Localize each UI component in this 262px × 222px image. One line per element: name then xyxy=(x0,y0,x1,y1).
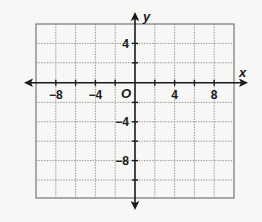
origin-label: O xyxy=(121,86,131,101)
y-tick-label: −8 xyxy=(115,154,129,168)
x-axis-label: x xyxy=(238,65,247,80)
x-tick-label: −4 xyxy=(89,88,103,102)
coordinate-plane: x y O −8 −4 4 8 4 −4 −8 xyxy=(0,0,262,222)
x-tick-label: −8 xyxy=(49,88,63,102)
x-tick-label: 4 xyxy=(171,88,178,102)
x-axis xyxy=(24,79,248,88)
y-tick-label: 4 xyxy=(122,37,129,51)
x-tick-label: 8 xyxy=(211,88,218,102)
y-tick-label: −4 xyxy=(115,115,129,129)
y-axis-label: y xyxy=(142,9,151,24)
